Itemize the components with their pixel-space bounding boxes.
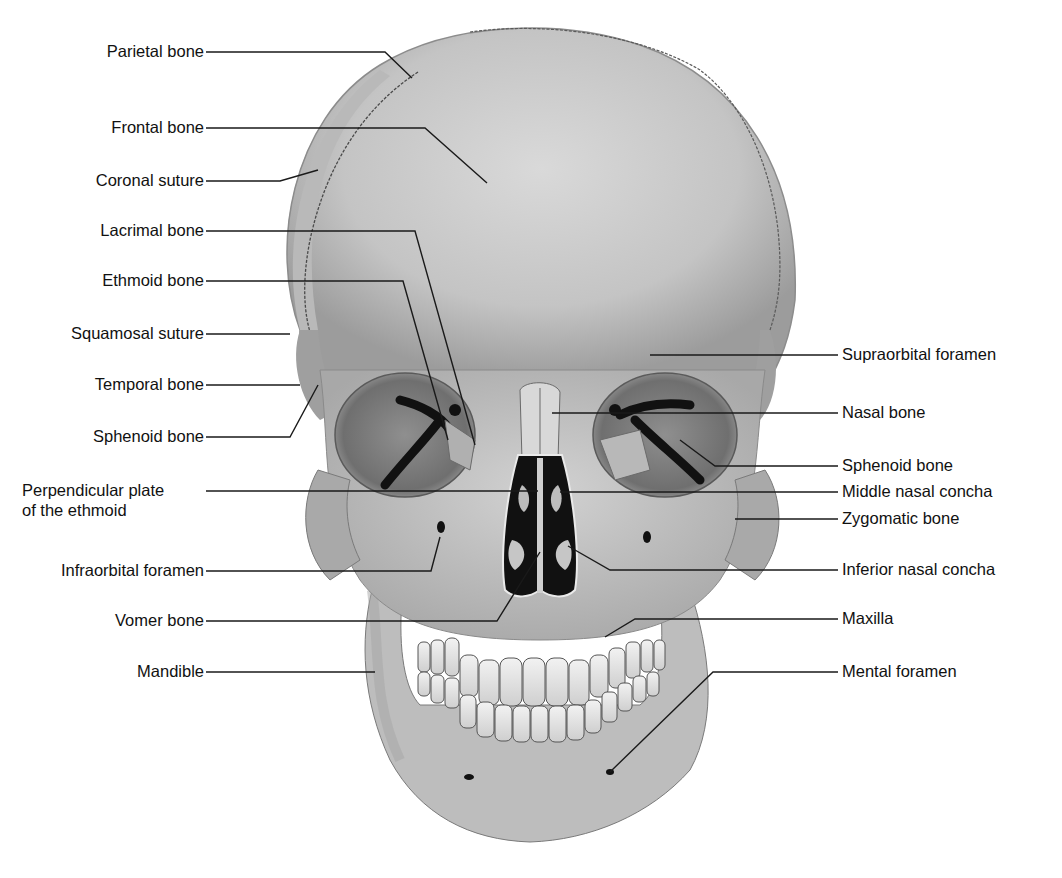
label-middle-nasal-concha: Middle nasal concha — [842, 482, 992, 501]
label-mandible: Mandible — [137, 662, 204, 681]
label-mental-foramen: Mental foramen — [842, 662, 957, 681]
skull-anterior-diagram: Parietal bone Frontal bone Coronal sutur… — [0, 0, 1062, 878]
label-squamosal-suture: Squamosal suture — [71, 324, 204, 343]
cranium-shape — [287, 28, 795, 380]
label-perpendicular-plate-line2: of the ethmoid — [22, 501, 127, 520]
label-temporal-bone: Temporal bone — [95, 375, 204, 394]
label-parietal-bone: Parietal bone — [107, 42, 204, 61]
label-infraorbital-foramen: Infraorbital foramen — [61, 561, 204, 580]
label-sphenoid-bone-right: Sphenoid bone — [842, 456, 953, 475]
label-frontal-bone: Frontal bone — [111, 118, 204, 137]
label-maxilla: Maxilla — [842, 609, 893, 628]
label-zygomatic-bone: Zygomatic bone — [842, 509, 959, 528]
label-inferior-nasal-concha: Inferior nasal concha — [842, 560, 995, 579]
label-coronal-suture: Coronal suture — [96, 171, 204, 190]
label-supraorbital-foramen: Supraorbital foramen — [842, 345, 996, 364]
label-sphenoid-bone-left: Sphenoid bone — [93, 427, 204, 446]
label-nasal-bone: Nasal bone — [842, 403, 925, 422]
label-vomer-bone: Vomer bone — [115, 611, 204, 630]
label-lacrimal-bone: Lacrimal bone — [100, 221, 204, 240]
label-perpendicular-plate: Perpendicular plate — [22, 481, 164, 500]
label-ethmoid-bone: Ethmoid bone — [102, 271, 204, 290]
